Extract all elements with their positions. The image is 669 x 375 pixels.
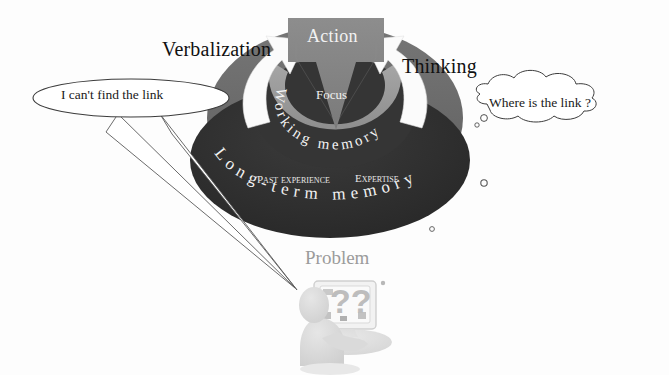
monitor-question-marks: ?? — [330, 282, 372, 320]
user-at-computer-figure: ?? — [299, 281, 392, 375]
thought-cloud-right — [475, 70, 596, 127]
diagram-scene: ?? Working memory Long-term memor — [0, 0, 669, 375]
diagram-canvas: ?? Working memory Long-term memor — [0, 0, 669, 375]
